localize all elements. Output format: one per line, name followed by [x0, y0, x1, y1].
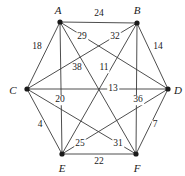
edge-weight-b-e: 11 [98, 63, 109, 73]
edge-weight-b-c: 32 [109, 32, 121, 42]
edge-a-b [60, 22, 137, 23]
edge-weight-c-e: 4 [37, 120, 44, 130]
vertex-dot-b [134, 20, 139, 25]
edge-a-f [60, 22, 136, 154]
edge-weight-a-c: 18 [31, 42, 43, 52]
vertex-label-e: E [59, 163, 66, 174]
edges-group [27, 22, 168, 154]
edge-weight-e-f: 22 [93, 157, 105, 167]
vertex-label-a: A [55, 5, 62, 16]
edge-b-e [62, 23, 137, 154]
vertex-dot-f [133, 151, 138, 156]
edge-weight-a-d: 29 [76, 32, 88, 42]
vertex-label-b: B [134, 5, 141, 16]
vertex-dot-c [24, 86, 29, 91]
vertex-label-c: C [9, 85, 16, 96]
weighted-graph-figure: ABCDEF 2418292038321411361343125722 [0, 0, 185, 176]
vertex-label-d: D [174, 85, 182, 96]
edge-weight-d-f: 7 [152, 120, 159, 130]
edge-weight-c-d: 13 [107, 84, 119, 94]
vertex-label-f: F [134, 163, 141, 174]
vertex-dot-e [59, 151, 64, 156]
edge-a-e [60, 22, 62, 154]
vertex-dot-a [57, 19, 62, 24]
graph-canvas [0, 0, 185, 176]
edge-weight-a-f: 38 [71, 63, 83, 73]
edge-b-f [136, 23, 137, 154]
edge-weight-c-f: 31 [112, 139, 124, 149]
edge-weight-b-d: 14 [152, 42, 164, 52]
edge-weight-a-b: 24 [93, 9, 105, 19]
edge-weight-d-e: 25 [74, 139, 86, 149]
edge-weight-b-f: 36 [132, 95, 144, 105]
edge-weight-a-e: 20 [54, 95, 66, 105]
vertex-dot-d [165, 86, 170, 91]
